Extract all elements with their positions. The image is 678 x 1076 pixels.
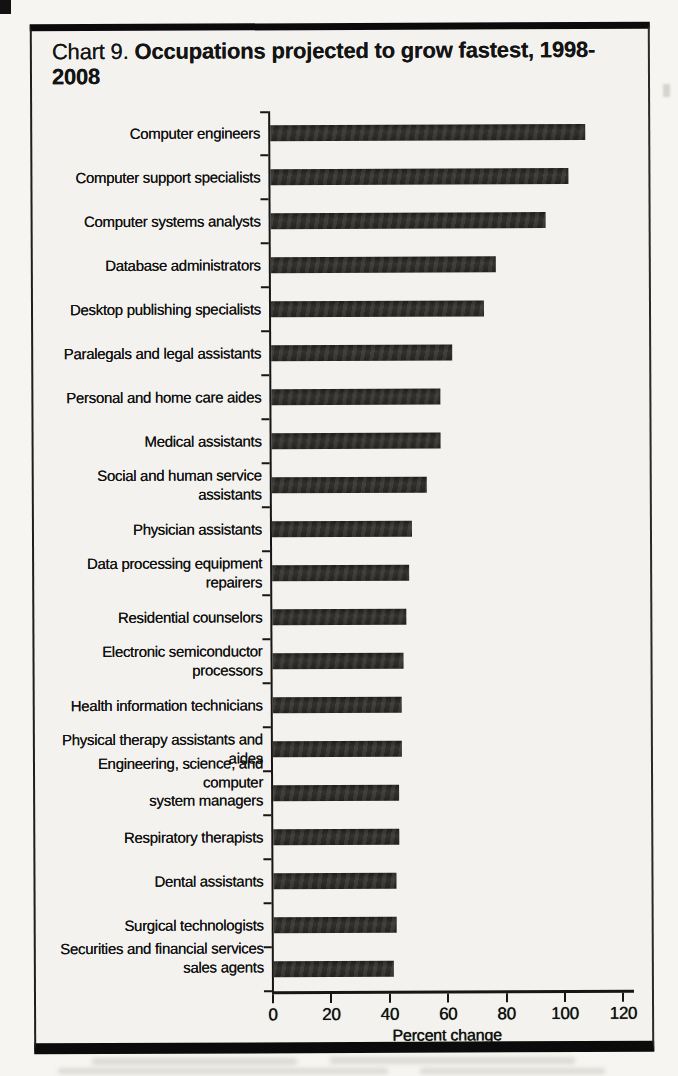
value-bar — [273, 741, 402, 758]
chart-row: Physician assistants — [34, 506, 648, 553]
y-axis-tick — [264, 990, 272, 992]
x-tick-label: 40 — [381, 1005, 399, 1025]
bleedthrough-smudge — [92, 1058, 297, 1065]
category-label: Engineering, science, and computer syste… — [35, 760, 263, 805]
x-tick-label: 100 — [551, 1004, 579, 1024]
category-label: Residential counselors — [34, 595, 262, 640]
value-bar — [271, 389, 440, 406]
chart-row: Respiratory therapists — [35, 814, 649, 861]
value-bar — [273, 873, 396, 890]
category-label: Desktop publishing specialists — [33, 287, 261, 332]
y-axis-tick — [261, 418, 269, 420]
y-axis-tick — [262, 638, 270, 640]
y-axis-tick — [262, 462, 270, 464]
y-axis-tick — [260, 154, 268, 156]
y-axis-tick — [263, 726, 271, 728]
scan-speck-artifact — [663, 84, 670, 97]
value-bar — [273, 653, 404, 670]
chart-row: Computer support specialists — [32, 154, 646, 201]
y-axis-tick — [261, 330, 269, 332]
value-bar — [271, 256, 496, 273]
x-axis-tick — [330, 994, 332, 1003]
value-bar — [270, 168, 568, 185]
chart-frame: Chart 9. Occupations projected to grow f… — [30, 22, 654, 1055]
chart-row: Securities and financial services sales … — [36, 946, 650, 993]
y-axis-tick — [264, 902, 272, 904]
value-bar — [272, 477, 427, 494]
category-label: Database administrators — [33, 243, 261, 288]
y-axis-tick — [262, 550, 270, 552]
value-bar — [273, 785, 399, 802]
category-label: Computer systems analysts — [33, 199, 261, 244]
category-label: Paralegals and legal assistants — [33, 331, 261, 376]
value-bar — [271, 300, 484, 317]
chart-row: Medical assistants — [33, 418, 647, 465]
chart-title: Chart 9. Occupations projected to grow f… — [52, 38, 638, 90]
value-bar — [274, 917, 397, 934]
bleedthrough-smudge — [330, 1057, 575, 1064]
x-axis-line — [272, 990, 634, 995]
category-label: Dental assistants — [35, 859, 263, 904]
value-bar — [272, 565, 409, 582]
value-bar — [270, 124, 585, 141]
y-axis-tick — [263, 814, 271, 816]
chart-row: Dental assistants — [35, 858, 649, 905]
x-axis-tick — [272, 994, 274, 1003]
value-bar — [271, 212, 546, 229]
x-tick-label: 20 — [322, 1005, 340, 1025]
value-bar — [272, 521, 412, 538]
chart-row: Engineering, science, and computer syste… — [35, 770, 649, 817]
y-axis-tick — [263, 770, 271, 772]
x-axis-tick — [506, 993, 508, 1002]
x-axis-tick — [389, 994, 391, 1003]
chart-row: Paralegals and legal assistants — [33, 330, 647, 377]
x-axis-tick — [622, 993, 624, 1002]
category-label: Social and human service assistants — [34, 463, 262, 508]
scan-corner-artifact — [0, 0, 11, 14]
category-label: Data processing equipment repairers — [34, 551, 262, 596]
y-axis-tick — [262, 506, 270, 508]
y-axis-tick — [264, 946, 272, 948]
chart-row: Personal and home care aides — [33, 374, 647, 421]
category-label: Health information technicians — [35, 683, 263, 728]
chart-row: Computer engineers — [32, 110, 646, 157]
chart-row: Residential counselors — [34, 594, 648, 641]
value-bar — [273, 829, 399, 846]
category-label: Medical assistants — [33, 419, 261, 464]
y-axis-tick — [261, 374, 269, 376]
y-axis-tick — [263, 858, 271, 860]
x-tick-label: 0 — [268, 1005, 277, 1025]
value-bar — [274, 961, 394, 978]
chart-row: Computer systems analysts — [33, 198, 647, 245]
chart-row: Database administrators — [33, 242, 647, 289]
x-axis-tick — [564, 993, 566, 1002]
y-axis-tick — [260, 111, 268, 113]
category-label: Securities and financial services sales … — [36, 936, 264, 981]
y-axis-tick — [262, 594, 270, 596]
category-label: Physician assistants — [34, 507, 262, 552]
x-axis-tick — [447, 994, 449, 1003]
x-tick-label: 60 — [439, 1005, 457, 1025]
chart-title-text: Occupations projected to grow fastest, 1… — [52, 37, 595, 89]
x-tick-label: 80 — [497, 1004, 515, 1024]
value-bar — [272, 609, 406, 626]
plot-area: Percent change Computer engineersCompute… — [32, 110, 650, 1048]
chart-row: Social and human service assistants — [34, 462, 648, 509]
chart-number-label: Chart 9. — [52, 39, 129, 64]
bleedthrough-smudge — [420, 1068, 605, 1074]
y-axis-tick — [261, 198, 269, 200]
chart-row: Electronic semiconductor processors — [34, 638, 648, 685]
y-axis-tick — [263, 682, 271, 684]
x-tick-label: 120 — [610, 1004, 638, 1024]
chart-row: Desktop publishing specialists — [33, 286, 647, 333]
y-axis-tick — [261, 242, 269, 244]
category-label: Personal and home care aides — [33, 375, 261, 420]
value-bar — [273, 697, 402, 714]
value-bar — [271, 345, 452, 362]
category-label: Respiratory therapists — [35, 815, 263, 860]
bleedthrough-smudge — [58, 1068, 388, 1074]
chart-row: Data processing equipment repairers — [34, 550, 648, 597]
category-label: Computer engineers — [32, 111, 260, 156]
chart-row: Health information technicians — [35, 682, 649, 729]
x-axis-title: Percent change — [392, 1026, 501, 1044]
